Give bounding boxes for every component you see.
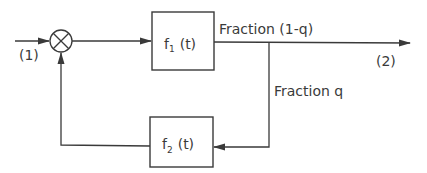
output-arrow <box>214 42 410 43</box>
block-f1: f1(t) <box>152 12 214 70</box>
input-label: (1) <box>19 47 39 63</box>
summing-junction <box>50 30 72 52</box>
feedback-fraction-label: Fraction q <box>274 83 343 99</box>
forward-fraction-label: Fraction (1-q) <box>219 21 313 37</box>
block-f2: f2(t) <box>150 117 213 167</box>
output-label: (2) <box>376 53 396 69</box>
block-diagram: f1(t) Fraction (1-q) (2) Fraction q f2(t… <box>0 0 427 173</box>
feedback-return-arrow <box>61 53 150 146</box>
block-f1-label: f1(t) <box>164 36 196 54</box>
feedback-branch-arrow <box>214 42 269 147</box>
